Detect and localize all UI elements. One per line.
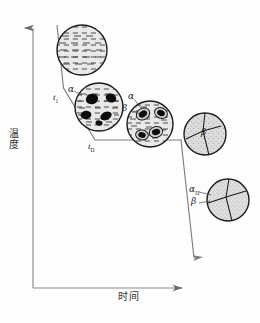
inset-alpha2-in-beta bbox=[207, 179, 249, 221]
label-alpha-two: αII bbox=[189, 185, 200, 196]
label-alpha-mid: α bbox=[128, 92, 134, 101]
label-t1-sub: 1 bbox=[56, 98, 59, 104]
label-t1: t1 bbox=[53, 93, 58, 104]
diagram-canvas bbox=[0, 0, 260, 323]
y-axis-label: 温度 bbox=[6, 128, 20, 150]
label-beta-bottom: β bbox=[191, 197, 196, 206]
inset-alpha-in-liquid bbox=[75, 83, 123, 131]
label-beta-circle: β bbox=[201, 128, 206, 137]
inset-liquid-melt bbox=[57, 25, 107, 75]
cooling-curve-figure: t1 tD α α β β αII β 温度 时间 bbox=[0, 0, 260, 323]
label-tD: tD bbox=[88, 142, 95, 153]
label-tD-sub: D bbox=[91, 147, 95, 153]
label-alpha-two-sub: II bbox=[195, 190, 199, 196]
axis-group bbox=[33, 28, 182, 288]
label-beta-mid: β bbox=[122, 104, 127, 113]
inset-alpha-beta-rim bbox=[127, 101, 173, 147]
label-alpha-left: α bbox=[68, 85, 74, 94]
x-axis-label: 时间 bbox=[118, 288, 140, 303]
